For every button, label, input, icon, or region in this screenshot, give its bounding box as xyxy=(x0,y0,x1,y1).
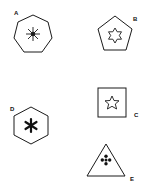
figure-b: B xyxy=(98,16,138,50)
bold-asterisk-icon xyxy=(26,119,37,132)
figure-e: E xyxy=(87,144,134,182)
figure-a: A xyxy=(14,10,52,52)
label-d: D xyxy=(10,106,15,112)
four-petal-cross-icon xyxy=(101,155,112,166)
five-point-star-icon xyxy=(105,96,119,109)
six-point-star-icon xyxy=(109,28,122,43)
pentagon-outline xyxy=(98,16,132,50)
label-e: E xyxy=(130,176,134,182)
label-b: B xyxy=(133,16,138,22)
square-outline xyxy=(98,88,126,117)
label-c: C xyxy=(134,112,139,118)
label-a: A xyxy=(14,10,19,16)
figure-d: D xyxy=(10,106,48,144)
asterisk-icon xyxy=(26,27,40,41)
shapes-diagram: A B C D E xyxy=(0,0,146,188)
figure-c: C xyxy=(98,88,139,118)
